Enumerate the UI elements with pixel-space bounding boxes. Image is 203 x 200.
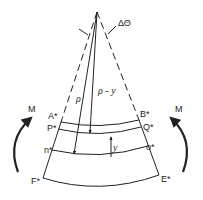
label-n: n* (44, 145, 53, 155)
label-F: F* (31, 176, 40, 186)
rho-minus-y-label: ρ - y (97, 85, 116, 96)
label-B: B* (140, 109, 150, 119)
radial-dashed-lines (61, 12, 139, 122)
label-Q: Q* (143, 122, 154, 132)
rho-label: ρ (75, 93, 81, 104)
moment-label-left: M (28, 104, 36, 114)
arc-PQ (58, 127, 141, 134)
arc-FE (43, 175, 159, 186)
moment-arrow-left-icon (14, 118, 31, 172)
arc-no (52, 146, 148, 155)
delta-theta-label: ΔΘ (118, 18, 131, 28)
moment-arrow-right-icon (171, 118, 187, 172)
label-o: o* (146, 142, 155, 152)
beam-segment (43, 120, 159, 186)
beam-bending-diagram: ΔΘ ρ ρ - y y A* B* P* Q* n* o* F* E* M M (0, 0, 203, 200)
label-P: P* (47, 123, 57, 133)
moment-label-right: M (175, 104, 183, 114)
label-A: A* (48, 111, 58, 121)
arc-AB (61, 120, 139, 126)
delta-theta-marks (79, 26, 116, 35)
y-label: y (112, 142, 118, 153)
label-E: E* (161, 174, 171, 184)
